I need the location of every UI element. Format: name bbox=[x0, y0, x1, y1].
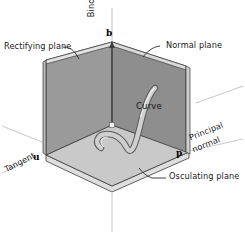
vertex-b-label: b bbox=[106, 28, 112, 38]
right-wall-side-edge bbox=[186, 66, 190, 154]
tangent-axis-line-outer bbox=[2, 126, 47, 144]
rectifying-plane-label: Rectifying plane bbox=[4, 42, 72, 51]
vertex-p-label: p bbox=[176, 148, 182, 158]
origin-marker bbox=[110, 123, 115, 128]
frenet-frame-diagram: Rectifying plane Normal plane Osculating… bbox=[0, 0, 245, 237]
principal-axis-line-outer bbox=[196, 86, 243, 103]
left-wall-side-edge bbox=[43, 60, 46, 155]
vertex-u-label: u bbox=[33, 152, 40, 162]
normal-plane-label: Normal plane bbox=[166, 41, 222, 50]
diagram-svg bbox=[0, 0, 245, 237]
curve-label: Curve bbox=[136, 102, 162, 112]
osculating-plane-label: Osculating plane bbox=[169, 172, 239, 181]
binormal-axis-label: Binormal bbox=[87, 0, 96, 17]
